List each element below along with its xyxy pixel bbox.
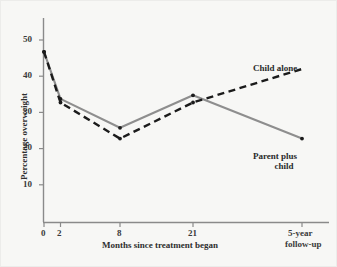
x-tick-label-5year: 5-year xyxy=(288,229,313,238)
x-tick-label-21: 21 xyxy=(188,229,197,238)
y-axis-title: Percentage overweight xyxy=(19,93,29,180)
line-chart-plot xyxy=(0,0,337,267)
y-tick-label-50: 50 xyxy=(23,35,32,44)
y-tick-label-10: 10 xyxy=(23,180,32,189)
x-tick-label-0: 0 xyxy=(41,229,46,238)
series-label-parent-plus-child-line2: child xyxy=(253,162,315,172)
series-label-child-alone: Child alone xyxy=(253,64,297,74)
x-axis-title: Months since treatment began xyxy=(102,240,218,250)
x-tick-label-8: 8 xyxy=(117,229,122,238)
x-tick-label-5year-followup: follow-up xyxy=(285,240,322,249)
chart-figure: 50 40 30 20 10 Percentage overweight 0 2… xyxy=(0,0,337,267)
x-tick-label-2: 2 xyxy=(57,229,62,238)
y-tick-label-40: 40 xyxy=(23,71,32,80)
y-axis-ticks xyxy=(39,40,43,185)
